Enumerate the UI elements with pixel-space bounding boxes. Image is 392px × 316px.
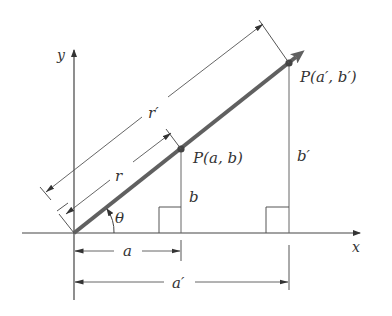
b-label: b	[189, 188, 199, 206]
right-angle-marker-a-prime	[266, 207, 289, 233]
right-angle-marker-a	[159, 207, 181, 233]
r-label: r	[115, 167, 123, 185]
x-axis-label: x	[352, 239, 360, 255]
point-p-label: P(a, b)	[192, 149, 243, 167]
r-prime-label: r′	[148, 104, 159, 122]
polar-vector-diagram: x y r r′ θ b b′	[0, 0, 392, 316]
y-axis-label: y	[56, 47, 66, 63]
point-p-prime-label: P(a′, b′)	[299, 68, 357, 86]
b-prime-label: b′	[297, 147, 311, 165]
a-prime-label: a′	[172, 274, 185, 292]
r-prime-dimension	[40, 20, 289, 200]
theta-label: θ	[115, 209, 124, 227]
a-label: a	[123, 242, 132, 260]
theta-angle-marker	[107, 209, 114, 233]
